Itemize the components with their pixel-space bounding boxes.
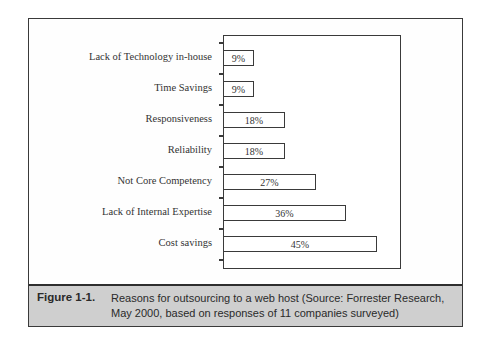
- category-label: Responsiveness: [32, 111, 212, 127]
- plot-area: 9%9%18%18%27%36%45%: [223, 35, 401, 269]
- category-label: Time Savings: [32, 80, 212, 96]
- bar-value-label: 36%: [275, 208, 293, 219]
- category-label: Lack of Internal Expertise: [32, 204, 212, 220]
- bar: 9%: [223, 50, 254, 66]
- category-label: Not Core Competency: [32, 173, 212, 189]
- bar: 18%: [223, 143, 285, 159]
- axis-tick: [219, 228, 224, 230]
- bar-value-label: 18%: [245, 146, 263, 157]
- axis-tick: [219, 104, 224, 106]
- axis-tick: [219, 166, 224, 168]
- figure-frame: Lack of Technology in-houseTime SavingsR…: [28, 18, 463, 327]
- axis-tick: [219, 197, 224, 199]
- axis-tick: [219, 73, 224, 75]
- category-label: Reliability: [32, 142, 212, 158]
- bar-value-label: 9%: [232, 84, 245, 95]
- bar-value-label: 27%: [260, 177, 278, 188]
- bar-value-label: 9%: [232, 53, 245, 64]
- axis-tick: [219, 135, 224, 137]
- bar-value-label: 18%: [245, 115, 263, 126]
- caption-text: Reasons for outsourcing to a web host (S…: [111, 291, 451, 321]
- bar: 9%: [223, 81, 254, 97]
- bar: 36%: [223, 205, 346, 221]
- category-label: Lack of Technology in-house: [32, 49, 212, 65]
- category-label: Cost savings: [32, 235, 212, 251]
- bar: 27%: [223, 174, 316, 190]
- figure-number: Figure 1-1.: [37, 291, 95, 303]
- bar-value-label: 45%: [291, 239, 309, 250]
- bar: 18%: [223, 112, 285, 128]
- figure-caption: Figure 1-1. Reasons for outsourcing to a…: [29, 284, 462, 326]
- axis-tick: [219, 42, 224, 44]
- axis-tick: [219, 259, 224, 261]
- bar: 45%: [223, 236, 377, 252]
